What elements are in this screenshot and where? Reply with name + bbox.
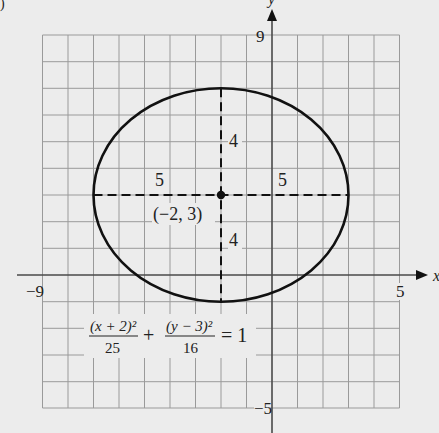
y-axis-label: y [266, 0, 276, 8]
equation-equals: = 1 [221, 324, 247, 346]
axes [17, 18, 420, 433]
equation-plus: + [143, 324, 154, 346]
top-radius-label: 4 [229, 131, 238, 151]
equation-term2-numerator: (y − 3)² [166, 318, 213, 335]
equation-term1-denominator: 25 [105, 340, 120, 356]
ellipse-graph: ) y x 9 −9 5 −5 4 5 5 (−2, 3) 4 (x + 2)²… [0, 0, 439, 433]
x-axis-label: x [432, 267, 439, 284]
center-point [217, 191, 225, 199]
left-radius-label: 5 [155, 170, 164, 190]
corner-fragment: ) [0, 0, 5, 12]
equation-term2-denominator: 16 [183, 340, 199, 356]
x-axis-arrow-icon [416, 270, 428, 280]
equation-term1-numerator: (x + 2)² [90, 318, 137, 335]
y-max-label: 9 [256, 27, 265, 46]
y-min-label: −5 [254, 399, 272, 418]
center-label: (−2, 3) [153, 204, 202, 225]
equation: (x + 2)² 25 + (y − 3)² 16 = 1 [84, 314, 256, 358]
bottom-radius-label: 4 [229, 230, 238, 250]
y-axis-arrow-icon [267, 9, 277, 21]
x-min-label: −9 [26, 282, 44, 301]
x-max-label: 5 [396, 282, 405, 301]
right-radius-label: 5 [278, 170, 287, 190]
